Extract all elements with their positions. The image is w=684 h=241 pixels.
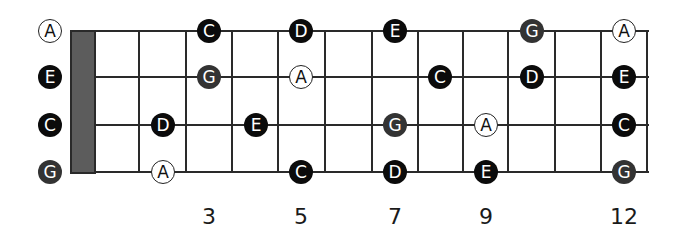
- note-dot-e: E: [383, 19, 407, 43]
- string-line: [70, 76, 649, 78]
- note-dot-g: G: [520, 19, 544, 43]
- note-dot-c: C: [197, 19, 221, 43]
- note-dot-d: D: [520, 65, 544, 89]
- nut: [70, 30, 96, 174]
- note-dot-a: A: [289, 65, 313, 89]
- note-dot-c: C: [38, 113, 62, 137]
- note-dot-c: C: [289, 160, 313, 184]
- note-dot-g: G: [612, 160, 636, 184]
- note-dot-g: G: [383, 113, 407, 137]
- fret-number-label: 9: [479, 204, 493, 229]
- fret-line: [417, 31, 419, 173]
- string-line: [70, 30, 649, 32]
- fret-line: [646, 31, 648, 173]
- fretboard-diagram: AECGCDEGAGACDEDEGACACDEG357912: [0, 0, 684, 241]
- note-dot-a: A: [612, 19, 636, 43]
- note-dot-a: A: [474, 113, 498, 137]
- fret-line: [507, 31, 509, 173]
- fret-line: [324, 31, 326, 173]
- note-dot-g: G: [38, 160, 62, 184]
- note-dot-e: E: [38, 65, 62, 89]
- note-dot-g: G: [197, 65, 221, 89]
- note-dot-e: E: [612, 65, 636, 89]
- fret-line: [600, 31, 602, 173]
- fret-line: [185, 31, 187, 173]
- fret-line: [371, 31, 373, 173]
- note-dot-a: A: [151, 160, 175, 184]
- fret-line: [462, 31, 464, 173]
- fret-line: [231, 31, 233, 173]
- fret-number-label: 12: [610, 204, 638, 229]
- fret-number-label: 3: [202, 204, 216, 229]
- note-dot-e: E: [474, 160, 498, 184]
- note-dot-e: E: [244, 113, 268, 137]
- fret-number-label: 7: [388, 204, 402, 229]
- fret-line: [138, 31, 140, 173]
- note-dot-d: D: [383, 160, 407, 184]
- note-dot-d: D: [289, 19, 313, 43]
- note-dot-c: C: [612, 113, 636, 137]
- note-dot-a: A: [38, 19, 62, 43]
- note-dot-c: C: [428, 65, 452, 89]
- note-dot-d: D: [151, 113, 175, 137]
- fret-line: [277, 31, 279, 173]
- fret-number-label: 5: [294, 204, 308, 229]
- fret-line: [554, 31, 556, 173]
